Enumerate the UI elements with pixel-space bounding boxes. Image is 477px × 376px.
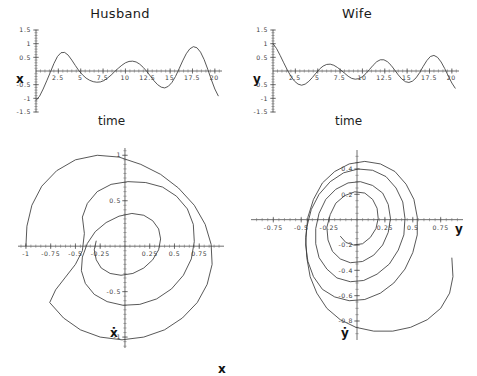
svg-text:12.5: 12.5 [376,74,392,81]
panel-husband-phase: x ẋ -1-0.75-0.5-0.250.250.50.75-1-0.50.… [0,140,240,376]
svg-text:-1: -1 [22,250,29,257]
wife-phase-ylabel: ẏ [341,326,349,340]
svg-text:17.5: 17.5 [421,74,437,81]
svg-text:0.5: 0.5 [19,54,31,61]
svg-text:10: 10 [120,74,129,81]
husband-time-title: Husband [0,6,240,21]
svg-text:0.5: 0.5 [109,197,121,204]
husband-phase-ylabel: ẋ [110,326,118,340]
svg-text:-0.75: -0.75 [264,224,283,231]
svg-text:0.5: 0.5 [256,54,268,61]
svg-text:-0.25: -0.25 [320,224,339,231]
svg-text:0.25: 0.25 [377,224,393,231]
svg-text:-1: -1 [261,95,268,102]
panel-husband-time: Husband x time 2.557.51012.51517.520-1.5… [0,0,240,140]
svg-text:0.75: 0.75 [191,250,207,257]
husband-time-xlabel: time [98,114,125,128]
svg-text:1: 1 [263,40,268,47]
svg-text:5: 5 [315,74,320,81]
svg-text:17.5: 17.5 [184,74,200,81]
svg-text:-1: -1 [24,95,31,102]
svg-text:0.25: 0.25 [142,250,158,257]
wife-phase-plot: -0.75-0.5-0.250.250.50.75-0.8-0.6-0.4-0.… [237,140,477,376]
wife-time-xlabel: time [335,114,362,128]
husband-phase-plot: -1-0.75-0.5-0.250.250.50.75-1-0.50.51 [0,140,240,376]
svg-text:0.75: 0.75 [433,224,449,231]
svg-text:-0.4: -0.4 [339,267,353,274]
svg-text:7.5: 7.5 [97,74,109,81]
svg-text:1: 1 [26,40,31,47]
wife-time-title: Wife [237,6,477,21]
svg-text:1.5: 1.5 [256,26,268,33]
svg-text:5: 5 [78,74,83,81]
wife-phase-xlabel: y [455,222,463,236]
figure-canvas: Husband x time 2.557.51012.51517.520-1.5… [0,0,477,376]
svg-text:-1.5: -1.5 [254,108,268,115]
husband-time-ylabel: x [16,72,24,86]
panel-wife-time: Wife y time 2.557.51012.51517.520-1.5-1-… [237,0,477,140]
svg-text:-1.5: -1.5 [17,108,31,115]
svg-text:-0.75: -0.75 [41,250,60,257]
svg-text:10: 10 [357,74,366,81]
svg-text:-0.5: -0.5 [106,288,120,295]
wife-time-ylabel: y [253,72,261,86]
svg-text:15: 15 [165,74,174,81]
husband-phase-xlabel: x [218,362,226,376]
svg-text:1.5: 1.5 [19,26,31,33]
svg-text:7.5: 7.5 [334,74,346,81]
panel-wife-phase: y ẏ -0.75-0.5-0.250.250.50.75-0.8-0.6-0… [237,140,477,376]
svg-text:-0.25: -0.25 [91,250,110,257]
svg-text:2.5: 2.5 [52,74,64,81]
svg-text:0.5: 0.5 [169,250,181,257]
svg-text:-0.6: -0.6 [339,292,353,299]
svg-text:2.5: 2.5 [289,74,301,81]
svg-text:-0.8: -0.8 [339,317,353,324]
